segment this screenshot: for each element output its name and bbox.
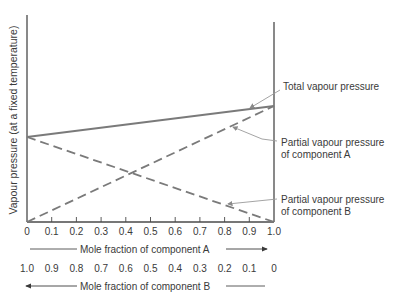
x-tick-label-B: 0.4 bbox=[168, 263, 182, 274]
x-tick-labels-A: 00.10.20.30.40.50.60.70.80.91.0 bbox=[24, 226, 281, 237]
x-tick-label-B: 1.0 bbox=[20, 263, 34, 274]
x-tick-label-B: 0.1 bbox=[242, 263, 256, 274]
vapour-pressure-chart: Vapour pressure (at a fixed temperature)… bbox=[0, 0, 406, 303]
x-tick-label-B: 0.7 bbox=[94, 263, 108, 274]
x-tick-label-A: 0.7 bbox=[193, 226, 207, 237]
partial-B-leader-arrow bbox=[228, 199, 277, 204]
x-tick-label-B: 0 bbox=[271, 263, 277, 274]
x-tick-label-A: 0 bbox=[24, 226, 30, 237]
axis-A-label: Mole fraction of component A bbox=[80, 244, 210, 255]
x-tick-label-A: 0.5 bbox=[144, 226, 158, 237]
y-axis-label: Vapour pressure (at a fixed temperature) bbox=[7, 26, 19, 215]
x-tick-labels-B: 1.00.90.80.70.60.50.40.30.20.10 bbox=[20, 263, 277, 274]
x-tick-label-A: 0.6 bbox=[168, 226, 182, 237]
x-tick-label-A: 0.2 bbox=[69, 226, 83, 237]
partial-B-label-line1: Partial vapour pressure bbox=[281, 194, 385, 205]
x-tick-label-B: 0.9 bbox=[45, 263, 59, 274]
x-tick-label-B: 0.5 bbox=[144, 263, 158, 274]
axis-B-label: Mole fraction of component B bbox=[80, 281, 210, 292]
x-tick-label-A: 0.8 bbox=[218, 226, 232, 237]
x-axis-ticks bbox=[52, 217, 250, 222]
partial-A-label-line1: Partial vapour pressure bbox=[281, 137, 385, 148]
total-vapour-pressure-line bbox=[27, 106, 274, 137]
x-tick-label-B: 0.8 bbox=[69, 263, 83, 274]
x-tick-label-B: 0.3 bbox=[193, 263, 207, 274]
partial-A-leader-arrow bbox=[233, 127, 277, 141]
x-tick-label-A: 0.9 bbox=[242, 226, 256, 237]
x-tick-label-A: 0.3 bbox=[94, 226, 108, 237]
partial-pressure-A-line bbox=[27, 106, 274, 222]
x-tick-label-A: 1.0 bbox=[267, 226, 281, 237]
x-tick-label-B: 0.6 bbox=[119, 263, 133, 274]
partial-A-label-line2: of component A bbox=[281, 149, 351, 160]
x-tick-label-A: 0.4 bbox=[119, 226, 133, 237]
x-tick-label-B: 0.2 bbox=[218, 263, 232, 274]
total-vapour-pressure-label: Total vapour pressure bbox=[283, 81, 380, 92]
partial-B-label-line2: of component B bbox=[281, 206, 351, 217]
x-tick-label-A: 0.1 bbox=[45, 226, 59, 237]
partial-pressure-B-line bbox=[27, 137, 274, 222]
total-leader-arrow bbox=[250, 90, 280, 108]
